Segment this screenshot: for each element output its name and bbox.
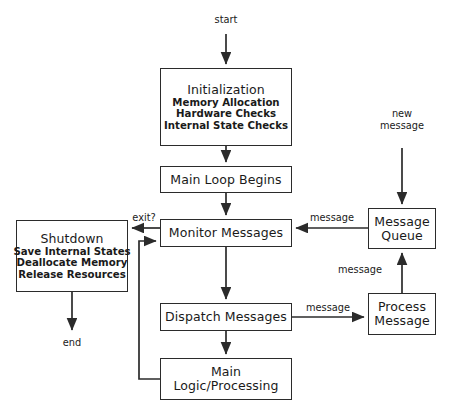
node-main-logic-processing[interactable]: Main Logic/Processing (160, 358, 292, 400)
node-main-logic-processing-line-2: Logic/Processing (173, 379, 278, 393)
node-shutdown-line-2: Deallocate Memory (17, 257, 128, 268)
edge-main-logic-to-monitor-feedback (139, 241, 160, 379)
node-initialization-title: Initialization (187, 83, 265, 97)
node-process-message-line-1: Process (378, 300, 426, 314)
label-new-message-line-2: message (373, 120, 431, 132)
label-new-message: new message (373, 108, 431, 132)
label-dispatch-to-process-message: message (297, 302, 359, 314)
label-exit: exit? (124, 212, 164, 224)
node-monitor-messages[interactable]: Monitor Messages (160, 219, 292, 247)
node-monitor-messages-title: Monitor Messages (169, 226, 283, 240)
node-initialization-line-1: Memory Allocation (172, 97, 279, 108)
label-process-to-queue-message: message (329, 264, 391, 276)
node-shutdown[interactable]: Shutdown Save Internal States Deallocate… (16, 220, 128, 292)
node-main-loop-begins-title: Main Loop Begins (170, 173, 281, 187)
node-dispatch-messages[interactable]: Dispatch Messages (160, 303, 292, 331)
node-shutdown-line-3: Release Resources (18, 269, 126, 280)
node-initialization[interactable]: Initialization Memory Allocation Hardwar… (160, 68, 292, 146)
node-main-loop-begins[interactable]: Main Loop Begins (160, 166, 292, 193)
node-initialization-line-3: Internal State Checks (164, 120, 288, 131)
node-message-queue-line-2: Queue (381, 229, 423, 243)
node-shutdown-line-1: Save Internal States (13, 246, 130, 257)
node-message-queue[interactable]: Message Queue (368, 208, 436, 249)
node-main-logic-processing-line-1: Main (211, 365, 241, 379)
label-end: end (45, 337, 99, 349)
node-shutdown-title: Shutdown (40, 232, 103, 246)
node-message-queue-line-1: Message (374, 215, 430, 229)
node-process-message-line-2: Message (374, 314, 430, 328)
label-queue-to-monitor-message: message (301, 212, 363, 224)
node-process-message[interactable]: Process Message (368, 293, 436, 335)
label-new-message-line-1: new (373, 108, 431, 120)
label-start: start (199, 14, 253, 26)
flowchart-canvas: Initialization Memory Allocation Hardwar… (0, 0, 451, 417)
node-dispatch-messages-title: Dispatch Messages (165, 310, 287, 324)
node-initialization-line-2: Hardware Checks (176, 108, 276, 119)
